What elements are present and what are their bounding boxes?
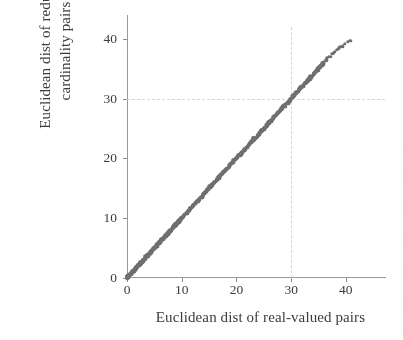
y-axis-label-line-2: cardinality pairs xyxy=(56,2,76,101)
x-tick-label: 20 xyxy=(230,282,244,298)
y-tick-label: 20 xyxy=(104,150,118,166)
y-axis-label-line-1: Euclidean dist of reduced xyxy=(36,0,56,129)
y-tick-label: 10 xyxy=(104,210,118,226)
y-tick-label: 0 xyxy=(110,270,117,286)
x-axis-label: Euclidean dist of real-valued pairs xyxy=(118,309,403,326)
y-tick-label: 30 xyxy=(104,91,118,107)
scatter-points-layer xyxy=(127,27,365,278)
scatter-point xyxy=(349,39,352,42)
x-tick-label: 40 xyxy=(339,282,353,298)
scatter-point xyxy=(343,42,346,45)
x-tick-label: 0 xyxy=(124,282,131,298)
scatter-point xyxy=(329,55,332,58)
plot-area: 010203040010203040 xyxy=(127,27,365,278)
x-tick-label: 30 xyxy=(284,282,298,298)
y-axis-label: Euclidean dist of reduced cardinality pa… xyxy=(26,0,86,180)
x-tick-label: 10 xyxy=(175,282,189,298)
y-tick-label: 40 xyxy=(104,31,118,47)
scatter-plot-figure: Euclidean dist of reduced cardinality pa… xyxy=(0,0,403,340)
